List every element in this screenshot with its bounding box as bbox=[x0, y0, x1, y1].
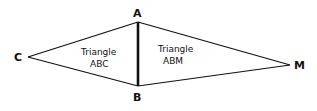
triangle-abc-label-line2: ABC bbox=[90, 59, 108, 69]
triangle-abm-label-line2: ABM bbox=[163, 56, 183, 66]
vertex-label-m: M bbox=[294, 59, 305, 72]
vertex-label-a: A bbox=[133, 7, 142, 20]
segment-cb bbox=[28, 57, 138, 86]
triangle-diagram: A B C M Triangle ABC Triangle ABM bbox=[0, 0, 317, 111]
triangle-abm-label-line1: Triangle bbox=[157, 44, 194, 54]
vertex-label-b: B bbox=[133, 91, 141, 104]
triangle-abm-shape bbox=[138, 22, 290, 86]
vertex-label-c: C bbox=[14, 51, 22, 64]
triangle-abc-label-line1: Triangle bbox=[80, 47, 117, 57]
segment-bm bbox=[138, 65, 290, 86]
